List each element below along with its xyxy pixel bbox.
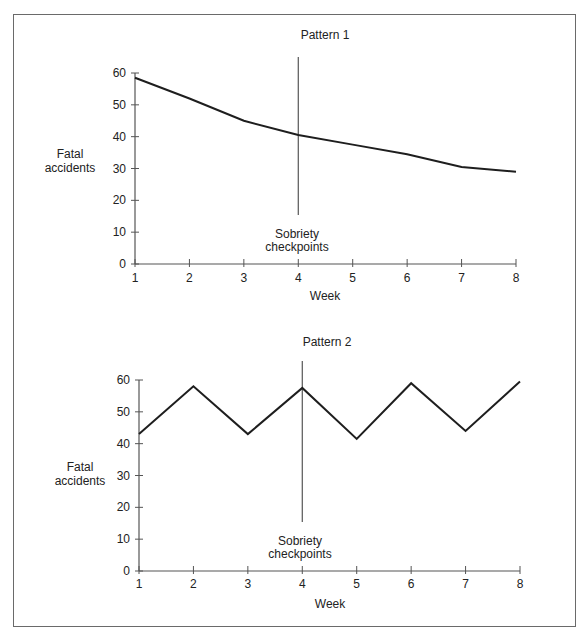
x-tick-label: 3 (245, 577, 252, 591)
x-tick-label: 5 (353, 577, 360, 591)
y-tick-label: 0 (123, 564, 130, 578)
x-tick-label: 5 (349, 271, 356, 285)
x-axis-label: Week (310, 289, 341, 303)
y-tick-label: 10 (113, 225, 127, 239)
x-tick-label: 7 (462, 577, 469, 591)
x-tick-label: 1 (132, 271, 139, 285)
checkpoint-label-line1: Sobriety (278, 534, 322, 548)
y-tick-label: 50 (113, 98, 127, 112)
y-tick-label: 30 (113, 162, 127, 176)
x-tick-label: 4 (295, 271, 302, 285)
data-line (139, 382, 520, 439)
y-tick-label: 0 (119, 257, 126, 271)
y-axis-label-line2: accidents (45, 161, 96, 175)
x-tick-label: 6 (404, 271, 411, 285)
x-tick-label: 8 (517, 577, 524, 591)
x-tick-label: 7 (458, 271, 465, 285)
chart-title: Pattern 2 (303, 335, 352, 349)
checkpoint-label-line1: Sobriety (275, 227, 319, 241)
x-tick-label: 3 (241, 271, 248, 285)
y-tick-label: 30 (117, 469, 131, 483)
chart-pattern-1: Pattern 1 Fatal accidents Week Sobriety … (45, 28, 520, 303)
y-axis-label-line2: accidents (55, 474, 106, 488)
chart-pattern-2: Pattern 2 Fatal accidents Week Sobriety … (55, 335, 524, 611)
x-tick-label: 6 (408, 577, 415, 591)
checkpoint-label-line2: checkpoints (268, 547, 331, 561)
x-tick-label: 2 (190, 577, 197, 591)
x-axis-label: Week (315, 597, 346, 611)
y-tick-label: 20 (117, 500, 131, 514)
y-tick-label: 40 (117, 437, 131, 451)
x-tick-label: 2 (186, 271, 193, 285)
y-tick-label: 10 (117, 532, 131, 546)
chart-title: Pattern 1 (301, 28, 350, 42)
x-tick-label: 4 (299, 577, 306, 591)
y-tick-label: 20 (113, 193, 127, 207)
y-axis-label-line1: Fatal (57, 147, 84, 161)
figure-canvas: Pattern 1 Fatal accidents Week Sobriety … (0, 0, 584, 634)
x-tick-label: 8 (513, 271, 520, 285)
checkpoint-label-line2: checkpoints (265, 240, 328, 254)
y-tick-label: 60 (117, 373, 131, 387)
y-tick-label: 60 (113, 66, 127, 80)
y-tick-label: 50 (117, 405, 131, 419)
data-line (135, 78, 516, 172)
y-tick-label: 40 (113, 130, 127, 144)
x-tick-label: 1 (136, 577, 143, 591)
y-axis-label-line1: Fatal (67, 460, 94, 474)
